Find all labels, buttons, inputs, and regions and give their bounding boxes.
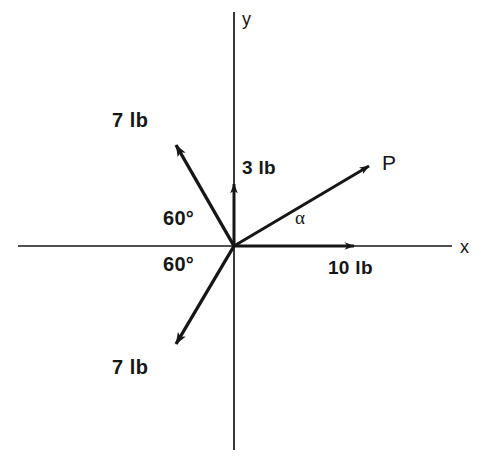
label-7lb-lower: 7 lb [112,357,148,377]
label-force-p: P [382,152,396,173]
label-angle-upper-60: 60° [163,208,194,228]
label-3lb: 3 lb [242,158,276,177]
force-vector-diagram: 7 lb 3 lb P α 60° 60° 10 lb 7 lb x y [0,0,481,465]
vector-p [234,166,369,246]
label-10lb: 10 lb [328,258,373,277]
label-angle-lower-60: 60° [163,254,194,274]
label-axis-y: y [242,10,251,28]
diagram-canvas [0,0,481,465]
label-7lb-upper: 7 lb [112,110,148,130]
vector-7lb-upper [176,145,234,246]
label-axis-x: x [460,238,469,256]
label-angle-alpha: α [295,208,305,227]
